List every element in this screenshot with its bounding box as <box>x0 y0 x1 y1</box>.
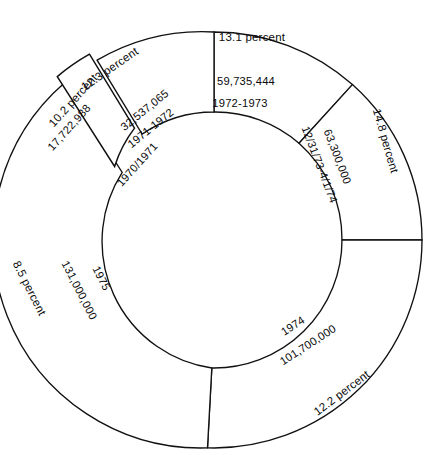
donut-chart-figure: 13.1 percent 59,735,444 1972-1973 14.8 p… <box>0 0 434 455</box>
label-percent-1972-1973: 13.1 percent <box>219 31 286 43</box>
label-period-1972-1973: 1972-1973 <box>212 97 267 109</box>
donut-chart-svg: 13.1 percent 59,735,444 1972-1973 14.8 p… <box>0 0 434 455</box>
label-amount-1972-1973: 59,735,444 <box>217 75 275 87</box>
